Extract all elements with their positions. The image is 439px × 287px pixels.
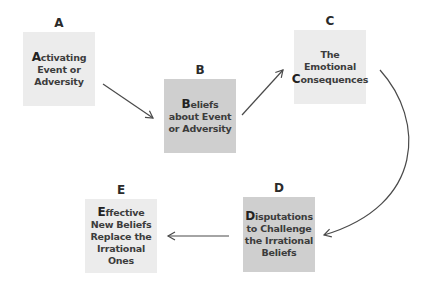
node-a-activating-event: Activating Event or Adversity <box>23 32 95 106</box>
node-b-line-2: about Event <box>169 111 232 123</box>
node-c-line-2: Emotional <box>304 61 356 73</box>
node-e-effective-new-beliefs: Effective New Beliefs Replace the Irrati… <box>85 199 157 273</box>
node-d-line-4: Beliefs <box>261 247 296 259</box>
step-label-b: B <box>164 63 236 77</box>
node-c-line-1: The <box>320 49 339 61</box>
node-e-line-3: Replace the <box>90 231 151 243</box>
node-a-line-2: Event or <box>37 64 80 76</box>
node-a-line-3: Adversity <box>34 76 83 88</box>
step-label-c: C <box>294 14 366 28</box>
node-e-line-5: Ones <box>108 255 134 267</box>
node-e-line-1: Effective <box>97 206 144 219</box>
node-d-disputations: Disputations to Challenge the Irrational… <box>243 197 315 272</box>
node-c-line-3: Consequences <box>292 73 368 86</box>
node-d-line-2: to Challenge <box>246 223 311 235</box>
node-b-beliefs: Beliefs about Event or Adversity <box>164 79 236 153</box>
step-label-a: A <box>23 16 95 30</box>
node-b-line-3: or Adversity <box>168 123 231 135</box>
node-d-line-3: the Irrational <box>245 235 313 247</box>
node-d-line-1: Disputations <box>245 210 313 223</box>
node-c-consequences: The Emotional Consequences <box>294 30 366 104</box>
arrow-b-to-c <box>242 70 283 115</box>
arrow-a-to-b <box>103 84 153 118</box>
step-label-d: D <box>243 181 315 195</box>
node-a-line-1: Activating <box>32 51 87 64</box>
node-e-line-2: New Beliefs <box>91 219 152 231</box>
node-e-line-4: Irrational <box>97 243 145 255</box>
node-b-line-1: Beliefs <box>182 98 219 111</box>
step-label-e: E <box>85 183 157 197</box>
